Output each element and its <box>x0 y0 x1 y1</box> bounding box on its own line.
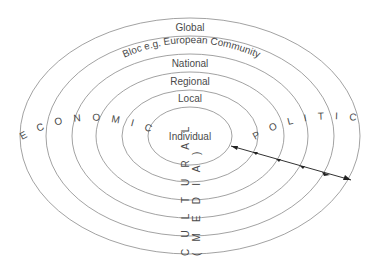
scale-arrow <box>231 146 351 180</box>
arrowhead-start <box>231 146 238 150</box>
label-cultural: C U L T U R A L <box>180 123 191 256</box>
label-media: ( M E D I A ) <box>191 148 202 257</box>
tick-national <box>300 166 305 169</box>
label-economic: E C O N O M I C <box>18 112 158 142</box>
label-global: Global <box>176 22 205 33</box>
label-bloc: Bloc e.g. European Community <box>121 34 262 60</box>
label-local: Local <box>178 93 202 104</box>
label-bloc-path: Bloc e.g. European Community <box>121 34 262 60</box>
label-national: National <box>172 58 209 69</box>
label-economic-path: E C O N O M I C <box>18 112 158 142</box>
levels-diagram: Global Bloc e.g. European Community Nati… <box>0 0 379 267</box>
label-regional: Regional <box>170 76 209 87</box>
